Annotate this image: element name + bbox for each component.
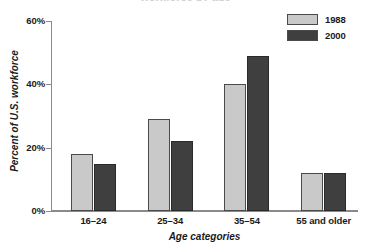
legend-item: 2000 [287, 29, 365, 42]
legend-label-1988: 1988 [325, 14, 346, 25]
y-axis-tick-label: 20% [26, 142, 45, 153]
y-axis-tick-labels: 0%20%40%60% [0, 0, 45, 248]
legend-swatch-1988 [287, 14, 318, 25]
x-axis-tick-label: 35–54 [206, 215, 287, 226]
y-axis-tick [46, 21, 52, 22]
x-axis-title: Age categories [51, 231, 358, 242]
x-axis-tick-label: 55 and older [283, 215, 364, 226]
clipped-chart-title: workforce by age [0, 0, 371, 1]
bar-2000-55-and-older [324, 173, 346, 211]
x-axis-tick-label: 25–34 [130, 215, 211, 226]
legend-label-2000: 2000 [325, 30, 346, 41]
y-axis-tick [46, 211, 52, 212]
bar-group [224, 21, 269, 211]
bar-1988-16-24 [71, 154, 93, 211]
legend-item: 1988 [287, 13, 365, 26]
x-axis-tick-label: 16–24 [53, 215, 134, 226]
y-axis-tick-label: 60% [26, 15, 45, 26]
bar-2000-35-54 [247, 56, 269, 211]
y-axis-tick [46, 84, 52, 85]
bar-1988-35-54 [224, 84, 246, 211]
plot-area [51, 21, 358, 211]
y-axis-tick [46, 148, 52, 149]
bar-1988-55-and-older [301, 173, 323, 211]
legend: 19882000 [287, 13, 365, 45]
legend-swatch-2000 [287, 30, 318, 41]
bar-2000-25-34 [171, 141, 193, 211]
bar-chart-figure: workforce by age Percent of U.S. workfor… [0, 0, 371, 248]
bar-group [148, 21, 193, 211]
bar-group [71, 21, 116, 211]
bar-group [301, 21, 346, 211]
bar-1988-25-34 [148, 119, 170, 211]
y-axis-tick-label: 40% [26, 78, 45, 89]
bar-2000-16-24 [94, 164, 116, 212]
y-axis-tick-label: 0% [31, 205, 45, 216]
